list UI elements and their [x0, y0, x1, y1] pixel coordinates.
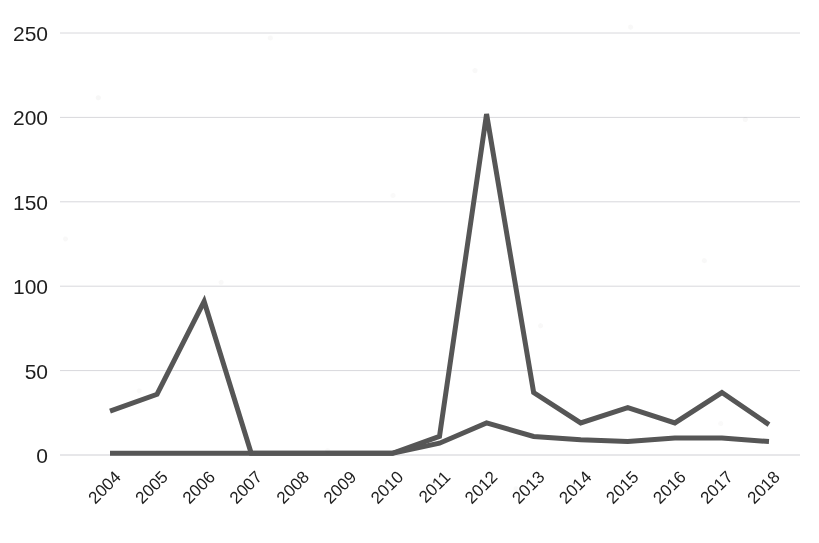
gridlines	[60, 33, 800, 455]
y-tick-label: 100	[13, 275, 48, 298]
y-tick-label: 50	[25, 360, 48, 383]
y-axis-tick-labels: 250200150100500	[13, 22, 48, 467]
y-tick-label: 250	[13, 22, 48, 45]
x-tick-label: 2018	[744, 467, 784, 507]
x-axis-tick-labels: 2004200520062007200820092010201120122013…	[85, 467, 784, 507]
x-tick-label: 2005	[132, 467, 172, 507]
x-tick-label: 2013	[508, 467, 548, 507]
x-tick-label: 2006	[179, 467, 219, 507]
x-tick-label: 2012	[461, 467, 501, 507]
data-series-group	[110, 114, 769, 453]
y-tick-label: 200	[13, 106, 48, 129]
x-tick-label: 2007	[226, 467, 266, 507]
x-tick-label: 2004	[85, 467, 125, 507]
x-tick-label: 2016	[649, 467, 689, 507]
x-tick-label: 2014	[555, 467, 595, 507]
x-tick-label: 2017	[697, 467, 737, 507]
line-chart: 250200150100500 200420052006200720082009…	[0, 0, 819, 543]
x-tick-label: 2015	[602, 467, 642, 507]
y-tick-label: 0	[36, 444, 48, 467]
x-tick-label: 2010	[367, 467, 407, 507]
x-tick-label: 2009	[320, 467, 360, 507]
x-tick-label: 2008	[273, 467, 313, 507]
x-tick-label: 2011	[415, 467, 454, 506]
series-line-series-1	[110, 114, 769, 453]
y-tick-label: 150	[13, 191, 48, 214]
chart-canvas: 250200150100500 200420052006200720082009…	[0, 0, 819, 543]
